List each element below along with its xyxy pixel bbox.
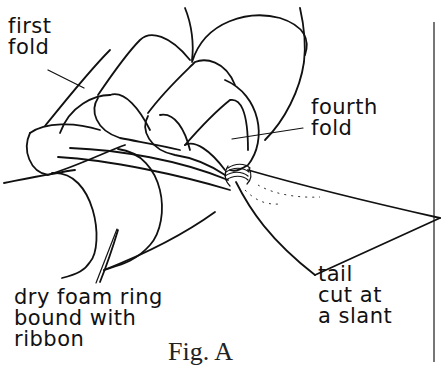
first-fold-loop: [27, 50, 125, 175]
leader-first-fold: [48, 70, 84, 88]
leader-foam-ring: [96, 229, 117, 283]
third-fold-loop: [145, 60, 235, 175]
ribbon-tail: [236, 170, 440, 275]
figure-caption: Fig. A: [168, 339, 233, 365]
label-fourth-fold: fourth fold: [311, 97, 378, 139]
label-foam-ring: dry foam ring bound with ribbon: [14, 287, 163, 350]
label-tail: tail cut at a slant: [318, 264, 392, 327]
label-first-fold: first fold: [8, 16, 52, 58]
ribbon-knot: [225, 164, 251, 186]
